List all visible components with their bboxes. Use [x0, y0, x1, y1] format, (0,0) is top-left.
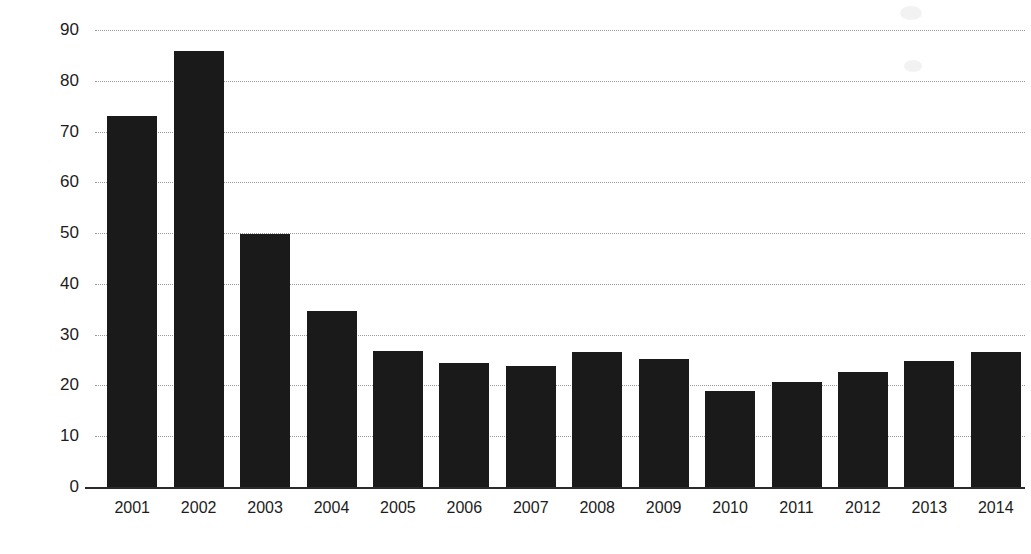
- gridline: [95, 335, 1025, 336]
- y-axis-tick-label: 40: [33, 274, 79, 294]
- x-axis-tick-label: 2012: [830, 499, 896, 517]
- y-axis-tick-label: 70: [33, 122, 79, 142]
- bar: [240, 234, 290, 487]
- y-axis-tick-label: 20: [33, 375, 79, 395]
- gridline: [95, 233, 1025, 234]
- bar: [772, 382, 822, 487]
- x-axis-tick-label: 2003: [232, 499, 298, 517]
- bar-chart: Thousands 9080706050403020100 2001200220…: [0, 0, 1031, 554]
- x-axis-tick-label: 2004: [298, 499, 364, 517]
- y-axis-tick-label: 80: [33, 71, 79, 91]
- y-axis-tick-label: 50: [33, 223, 79, 243]
- gridline: [95, 81, 1025, 82]
- bar: [174, 51, 224, 487]
- bar: [506, 366, 556, 487]
- gridline: [95, 284, 1025, 285]
- bar: [373, 351, 423, 487]
- y-axis-tick-label: 30: [33, 325, 79, 345]
- x-axis-tick-label: 2010: [697, 499, 763, 517]
- bar: [572, 352, 622, 487]
- x-axis-tick-label: 2002: [165, 499, 231, 517]
- x-axis-tick-label: 2005: [365, 499, 431, 517]
- x-axis-tick-label: 2008: [564, 499, 630, 517]
- bar: [639, 359, 689, 487]
- x-axis-tick-label: 2009: [630, 499, 696, 517]
- gridline: [95, 132, 1025, 133]
- y-axis-tick-label: 60: [33, 172, 79, 192]
- bar: [838, 372, 888, 487]
- bar: [904, 361, 954, 487]
- x-axis-tick-label: 2006: [431, 499, 497, 517]
- gridline: [95, 182, 1025, 183]
- x-axis-tick-label: 2001: [99, 499, 165, 517]
- bar: [439, 363, 489, 487]
- bar: [307, 311, 357, 487]
- x-axis-tick-label: 2007: [498, 499, 564, 517]
- x-axis-tick-label: 2013: [896, 499, 962, 517]
- gridline: [95, 30, 1025, 31]
- x-axis-tick-label: 2014: [963, 499, 1029, 517]
- y-axis-tick-label: 90: [33, 20, 79, 40]
- x-axis-tick-label: 2011: [763, 499, 829, 517]
- scan-artifact: [900, 6, 922, 20]
- bar: [107, 116, 157, 487]
- bar: [971, 352, 1021, 487]
- plot-area: 9080706050403020100 20012002200320042005…: [95, 30, 1025, 500]
- x-axis-line: [85, 487, 1025, 489]
- y-axis-tick-label: 0: [33, 477, 79, 497]
- bar: [705, 391, 755, 487]
- y-axis-tick-label: 10: [33, 426, 79, 446]
